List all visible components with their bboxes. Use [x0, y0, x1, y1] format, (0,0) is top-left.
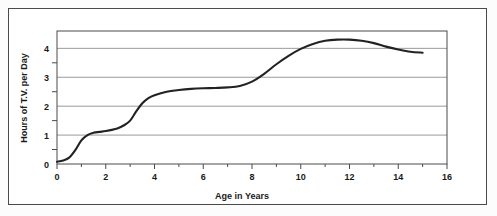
- y-tick-label-1: 1: [44, 131, 49, 141]
- x-tick-label-0: 0: [54, 172, 59, 182]
- x-tick-label-2: 2: [103, 172, 108, 182]
- chart-figure: 01234 0246810121416 Age in Years Hours o…: [0, 0, 497, 216]
- y-axis-title: Hours of T.V. per Day: [19, 53, 29, 143]
- x-axis-ticks: [57, 164, 447, 169]
- y-tick-label-2: 2: [44, 102, 49, 112]
- x-tick-label-6: 6: [201, 172, 206, 182]
- y-tick-label-4: 4: [44, 44, 49, 54]
- x-tick-label-4: 4: [152, 172, 157, 182]
- y-axis-tick-labels: 01234: [44, 44, 49, 170]
- x-tick-label-8: 8: [249, 172, 254, 182]
- y-tick-label-3: 3: [44, 73, 49, 83]
- x-tick-label-16: 16: [442, 172, 452, 182]
- x-tick-label-14: 14: [393, 172, 403, 182]
- y-tick-label-0: 0: [44, 160, 49, 170]
- x-tick-label-10: 10: [296, 172, 306, 182]
- x-axis-tick-labels: 0246810121416: [54, 172, 452, 182]
- x-tick-label-12: 12: [344, 172, 354, 182]
- plot-area-background: [57, 31, 447, 164]
- x-axis-title: Age in Years: [215, 191, 269, 201]
- tv-hours-line-chart: 01234 0246810121416 Age in Years Hours o…: [0, 0, 497, 216]
- y-axis-minor-ticks: [52, 63, 57, 150]
